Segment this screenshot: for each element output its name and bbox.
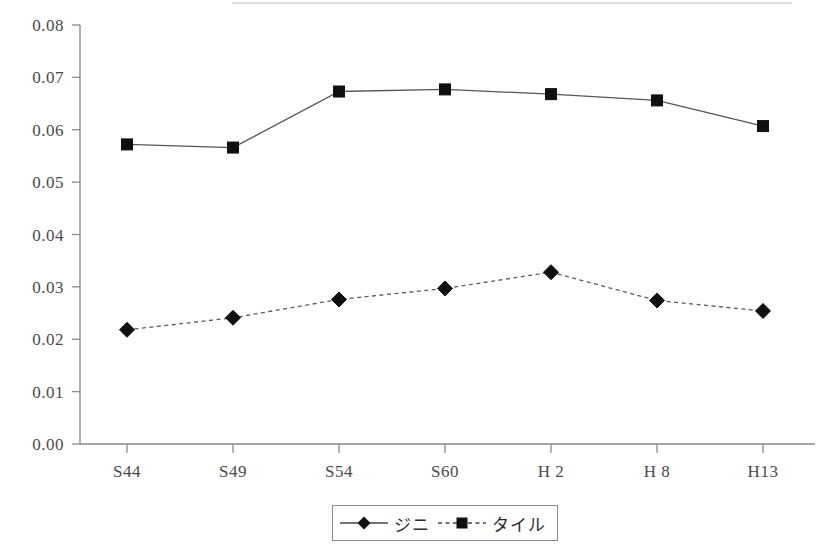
y-axis-tick-label: 0.04 bbox=[32, 226, 64, 245]
legend-label-gini: ジニ bbox=[390, 511, 436, 536]
data-point-marker bbox=[228, 142, 239, 153]
x-axis-tick-label: H 8 bbox=[644, 462, 671, 481]
y-axis-tick-labels: 0.000.010.020.030.040.050.060.070.08 bbox=[32, 16, 64, 454]
series-theil bbox=[122, 84, 769, 153]
data-point-marker bbox=[332, 292, 347, 307]
y-axis-tick-label: 0.00 bbox=[32, 435, 64, 454]
data-point-marker bbox=[440, 84, 451, 95]
y-axis-ticks bbox=[72, 25, 80, 444]
x-axis-tick-label: S49 bbox=[219, 462, 247, 481]
x-axis-tick-labels: S44S49S54S60H 2H 8H13 bbox=[113, 462, 778, 481]
series-theil-line bbox=[127, 89, 763, 147]
data-point-marker bbox=[122, 139, 133, 150]
x-axis-tick-label: S44 bbox=[113, 462, 141, 481]
legend-entry-theil: タイル bbox=[436, 506, 552, 540]
x-axis-ticks bbox=[127, 444, 763, 453]
y-axis-tick-label: 0.07 bbox=[32, 68, 64, 87]
x-axis: S44S49S54S60H 2H 8H13 bbox=[80, 444, 815, 481]
legend-entry-gini: ジニ bbox=[338, 506, 436, 540]
data-point-marker bbox=[334, 86, 345, 97]
data-point-marker bbox=[652, 95, 663, 106]
chart-legend: ジニ タイル bbox=[332, 505, 558, 541]
data-point-marker bbox=[756, 303, 771, 318]
y-axis-tick-label: 0.06 bbox=[32, 121, 64, 140]
series-theil-markers bbox=[122, 84, 769, 153]
data-point-marker bbox=[438, 281, 453, 296]
legend-sample-gini bbox=[338, 514, 390, 532]
x-axis-tick-label: H 2 bbox=[538, 462, 565, 481]
y-axis-tick-label: 0.01 bbox=[32, 383, 64, 402]
x-axis-tick-label: H13 bbox=[748, 462, 779, 481]
y-axis-tick-label: 0.05 bbox=[32, 173, 64, 192]
data-point-marker bbox=[544, 265, 559, 280]
y-axis: 0.000.010.020.030.040.050.060.070.08 bbox=[32, 16, 80, 454]
data-point-marker bbox=[120, 322, 135, 337]
data-point-marker bbox=[650, 293, 665, 308]
series-gini-markers bbox=[120, 265, 771, 338]
chart-container: 0.000.010.020.030.040.050.060.070.08 S44… bbox=[0, 0, 828, 560]
x-axis-tick-label: S54 bbox=[325, 462, 353, 481]
y-axis-tick-label: 0.08 bbox=[32, 16, 64, 35]
y-axis-tick-label: 0.02 bbox=[32, 330, 64, 349]
x-axis-tick-label: S60 bbox=[431, 462, 459, 481]
data-point-marker bbox=[546, 89, 557, 100]
line-chart-plot: 0.000.010.020.030.040.050.060.070.08 S44… bbox=[0, 0, 828, 560]
data-point-marker bbox=[758, 121, 769, 132]
series-gini bbox=[120, 265, 771, 338]
data-point-marker bbox=[226, 310, 241, 325]
y-axis-tick-label: 0.03 bbox=[32, 278, 64, 297]
legend-label-theil: タイル bbox=[488, 511, 552, 536]
legend-sample-theil bbox=[436, 514, 488, 532]
